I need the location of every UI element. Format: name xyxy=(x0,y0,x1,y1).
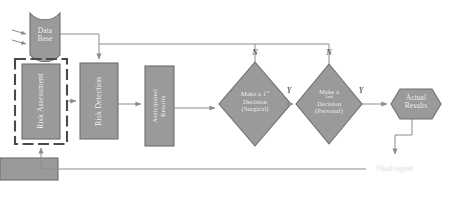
flowchart-graphics xyxy=(0,0,460,198)
node-database xyxy=(30,13,60,62)
node-anticipated-results xyxy=(145,66,174,146)
edge-database-to-risk-detection xyxy=(60,34,99,59)
node-actual-results xyxy=(391,89,441,119)
edge-final-report-to-risk-assessment xyxy=(41,148,366,169)
node-decision-2 xyxy=(296,64,362,144)
edge-no-feedback-bus xyxy=(99,44,329,64)
node-decision-1 xyxy=(219,62,291,146)
node-risk-assessment xyxy=(22,64,60,139)
edge-external-to-database xyxy=(12,30,26,44)
node-risk-detection xyxy=(80,63,118,139)
flowchart-canvas: Data Base Risk Assessment Risk Detection… xyxy=(0,0,460,198)
edge-actual-results-to-final-report xyxy=(395,119,412,154)
